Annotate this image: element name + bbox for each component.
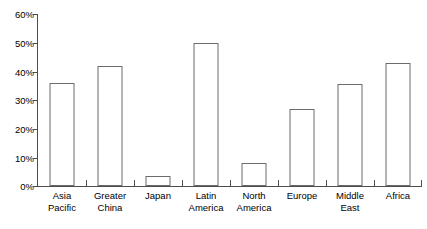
x-axis-category-line: North xyxy=(230,190,278,202)
bar-slot xyxy=(374,14,422,186)
x-axis-category-line: Africa xyxy=(374,190,422,202)
y-axis-labels: 60% 50% 40% 30% 20% 10% 0% xyxy=(0,0,34,192)
plot-area xyxy=(38,14,422,186)
x-axis-tick-mark xyxy=(374,180,375,186)
x-axis-tick-mark xyxy=(86,180,87,186)
bar-north-america[interactable] xyxy=(242,163,267,186)
x-axis-line xyxy=(37,186,422,187)
bar-slot xyxy=(230,14,278,186)
bar-slot xyxy=(182,14,230,186)
bar-slot xyxy=(134,14,182,186)
y-axis-tick-mark xyxy=(33,100,37,101)
bar-japan[interactable] xyxy=(146,176,171,186)
x-axis-tick-mark xyxy=(230,180,231,186)
y-axis-tick-mark xyxy=(33,129,37,130)
bar-slot xyxy=(86,14,134,186)
y-axis-tick-mark xyxy=(33,43,37,44)
bar-slot xyxy=(38,14,86,186)
y-axis-tick-label: 20% xyxy=(0,125,34,135)
y-axis-tick-label: 0% xyxy=(0,182,34,192)
bar-asia-pacific[interactable] xyxy=(50,83,75,186)
y-axis-tick-label: 40% xyxy=(0,68,34,78)
x-axis-category-line: Pacific xyxy=(38,202,86,214)
x-axis-category-line: America xyxy=(182,202,230,214)
y-axis-tick-label: 30% xyxy=(0,96,34,106)
y-axis-tick-label: 60% xyxy=(0,10,34,20)
bar-slot xyxy=(326,14,374,186)
bar-latin-america[interactable] xyxy=(194,43,219,186)
x-axis-category-line: Middle xyxy=(326,190,374,202)
y-axis-tick-mark xyxy=(33,14,37,15)
x-axis-category-line: China xyxy=(86,202,134,214)
x-axis-category-line: Asia xyxy=(38,190,86,202)
y-axis-tick-label: 50% xyxy=(0,39,34,49)
x-axis-tick-mark xyxy=(278,180,279,186)
x-axis-category-line: Europe xyxy=(278,190,326,202)
x-axis-tick-mark xyxy=(326,180,327,186)
x-axis-category-label: Latin America xyxy=(182,190,230,213)
x-axis-category-label: Asia Pacific xyxy=(38,190,86,213)
x-axis-category-line: East xyxy=(326,202,374,214)
x-axis-tick-mark xyxy=(134,180,135,186)
x-axis-category-line: Greater xyxy=(86,190,134,202)
x-axis-category-label: Greater China xyxy=(86,190,134,213)
y-axis-tick-label: 10% xyxy=(0,154,34,164)
bar-greater-china[interactable] xyxy=(98,66,123,186)
y-axis-tick-mark xyxy=(33,72,37,73)
x-axis-category-label: Europe xyxy=(278,190,326,202)
y-axis-tick-mark xyxy=(33,158,37,159)
bar-europe[interactable] xyxy=(290,109,315,186)
x-axis-category-line: America xyxy=(230,202,278,214)
x-axis-tick-mark xyxy=(421,180,422,186)
x-axis-category-label: North America xyxy=(230,190,278,213)
x-axis-category-label: Africa xyxy=(374,190,422,202)
x-axis-category-line: Japan xyxy=(134,190,182,202)
bar-middle-east[interactable] xyxy=(338,84,363,186)
bar-africa[interactable] xyxy=(386,63,411,186)
x-axis-category-label: Japan xyxy=(134,190,182,202)
bar-slot xyxy=(278,14,326,186)
x-axis-tick-mark xyxy=(182,180,183,186)
bar-chart: 60% 50% 40% 30% 20% 10% 0% xyxy=(0,0,427,229)
x-axis-category-label: Middle East xyxy=(326,190,374,213)
x-axis-category-line: Latin xyxy=(182,190,230,202)
x-axis-labels: Asia Pacific Greater China Japan Latin A… xyxy=(38,190,422,228)
